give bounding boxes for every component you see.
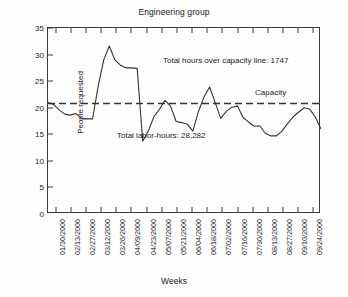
- chart-figure: Engineering group People requested 05101…: [0, 0, 348, 297]
- x-tick-label: 07/02/2000: [224, 219, 233, 255]
- x-tick-label: 09/10/2000: [300, 219, 309, 255]
- x-tick-label: 03/12/2000: [103, 219, 112, 255]
- annotation-capacity-label: Capacity: [255, 88, 286, 97]
- x-tick-label: 08/27/2000: [285, 219, 294, 255]
- x-tick-label: 04/23/2000: [149, 219, 158, 255]
- y-tick-label: 20: [35, 103, 48, 112]
- y-tick-label: 25: [35, 77, 48, 86]
- y-tick-label: 35: [35, 24, 48, 33]
- x-axis-label: Weeks: [0, 276, 348, 286]
- plot-area: People requested 05101520253035: [47, 27, 320, 213]
- y-tick-label: 10: [35, 156, 48, 165]
- y-tick-label: 30: [35, 50, 48, 59]
- chart-title: Engineering group: [0, 7, 348, 17]
- annotation-over-capacity: Total hours over capacity line: 1747: [163, 56, 288, 65]
- x-tick-label: 06/18/2000: [209, 219, 218, 255]
- x-tick-label: 07/30/2000: [255, 219, 264, 255]
- y-tick-label: 5: [40, 183, 48, 192]
- x-tick-label: 06/04/2000: [194, 219, 203, 255]
- x-tick-label: 09/24/2000: [315, 219, 324, 255]
- x-tick-label: 05/07/2000: [164, 219, 173, 255]
- annotation-total-labor-hours: Total labor-hours: 28,282: [117, 131, 206, 140]
- x-tick-label: 02/13/2000: [73, 219, 82, 255]
- y-tick-label: 15: [35, 130, 48, 139]
- x-tick-label: 05/21/2000: [179, 219, 188, 255]
- x-tick-label: 04/09/2000: [133, 219, 142, 255]
- x-tick-label: 03/26/2000: [118, 219, 127, 255]
- y-tick-label: 0: [40, 210, 48, 219]
- x-tick-label: 02/27/2000: [88, 219, 97, 255]
- x-tick-label: 01/30/2000: [58, 219, 67, 255]
- x-tick-label: 07/16/2000: [240, 219, 249, 255]
- x-tick-label: 08/13/2000: [270, 219, 279, 255]
